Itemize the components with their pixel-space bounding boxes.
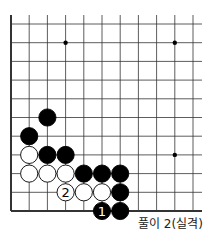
black-stone bbox=[57, 146, 74, 163]
black-stone bbox=[21, 128, 38, 145]
black-stone bbox=[93, 165, 110, 182]
black-stone bbox=[112, 165, 129, 182]
white-stone bbox=[21, 146, 38, 163]
star-point bbox=[173, 41, 177, 45]
white-stone bbox=[75, 184, 92, 201]
white-stone bbox=[39, 165, 56, 182]
black-stone bbox=[39, 109, 56, 126]
white-stone-2: 2 bbox=[57, 184, 74, 201]
star-point bbox=[63, 41, 67, 45]
black-stone bbox=[112, 202, 129, 219]
move-number: 1 bbox=[98, 204, 106, 219]
white-stone bbox=[93, 184, 110, 201]
black-stone bbox=[39, 146, 56, 163]
go-board: 21 bbox=[0, 0, 212, 233]
diagram-caption: 풀이 2(실격) bbox=[138, 214, 203, 231]
white-stone bbox=[21, 165, 38, 182]
stones: 21 bbox=[21, 109, 129, 220]
white-stone bbox=[57, 165, 74, 182]
black-stone bbox=[75, 165, 92, 182]
move-number: 2 bbox=[61, 185, 69, 200]
star-point bbox=[173, 153, 177, 157]
black-stone bbox=[112, 184, 129, 201]
black-stone-1: 1 bbox=[93, 202, 110, 219]
